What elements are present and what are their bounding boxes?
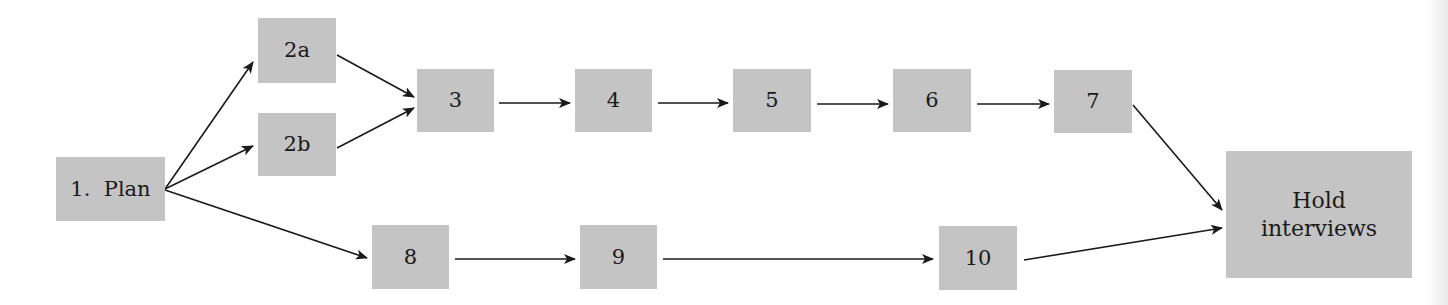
node-hold-label-line1: Hold — [1292, 187, 1346, 215]
node-2b-label: 2b — [284, 131, 311, 157]
node-9: 9 — [580, 225, 657, 289]
node-4: 4 — [575, 69, 652, 132]
node-4-label: 4 — [607, 87, 620, 113]
arrow-plan-to-8 — [165, 190, 367, 258]
node-2a: 2a — [258, 18, 336, 83]
node-3-label: 3 — [449, 87, 462, 113]
node-6: 6 — [893, 69, 971, 132]
node-5: 5 — [733, 69, 811, 132]
node-5-label: 5 — [765, 87, 778, 113]
node-8: 8 — [372, 225, 449, 289]
node-7-label: 7 — [1086, 88, 1099, 114]
node-7: 7 — [1054, 70, 1132, 133]
node-10: 10 — [939, 226, 1017, 290]
node-2a-label: 2a — [284, 37, 310, 63]
node-hold-interviews: Hold interviews — [1226, 151, 1412, 278]
node-3: 3 — [417, 69, 494, 132]
node-plan: 1. Plan — [56, 157, 165, 221]
node-8-label: 8 — [404, 244, 417, 270]
node-plan-label: 1. Plan — [70, 176, 150, 202]
arrow-plan-to-2b — [165, 146, 253, 189]
arrow-2a-to-3 — [337, 55, 414, 97]
node-9-label: 9 — [612, 244, 625, 270]
arrow-2b-to-3 — [337, 108, 414, 148]
node-10-label: 10 — [965, 245, 992, 271]
arrow-7-to-hold — [1133, 105, 1222, 210]
node-hold-label-line2: interviews — [1261, 215, 1377, 243]
arrow-plan-to-2a — [165, 62, 253, 189]
node-2b: 2b — [258, 113, 336, 176]
node-6-label: 6 — [925, 87, 938, 113]
arrow-10-to-hold — [1024, 228, 1222, 260]
